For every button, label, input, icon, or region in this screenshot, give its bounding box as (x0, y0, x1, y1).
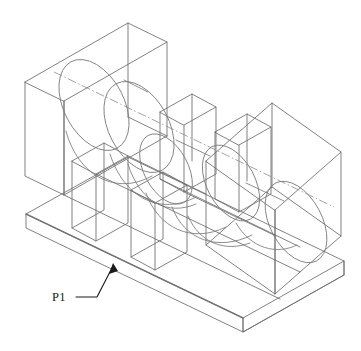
cad-drawing-canvas: P1 (0, 0, 361, 351)
p1-label-text: P1 (52, 290, 66, 304)
isometric-wireframe-svg: P1 (0, 0, 361, 351)
